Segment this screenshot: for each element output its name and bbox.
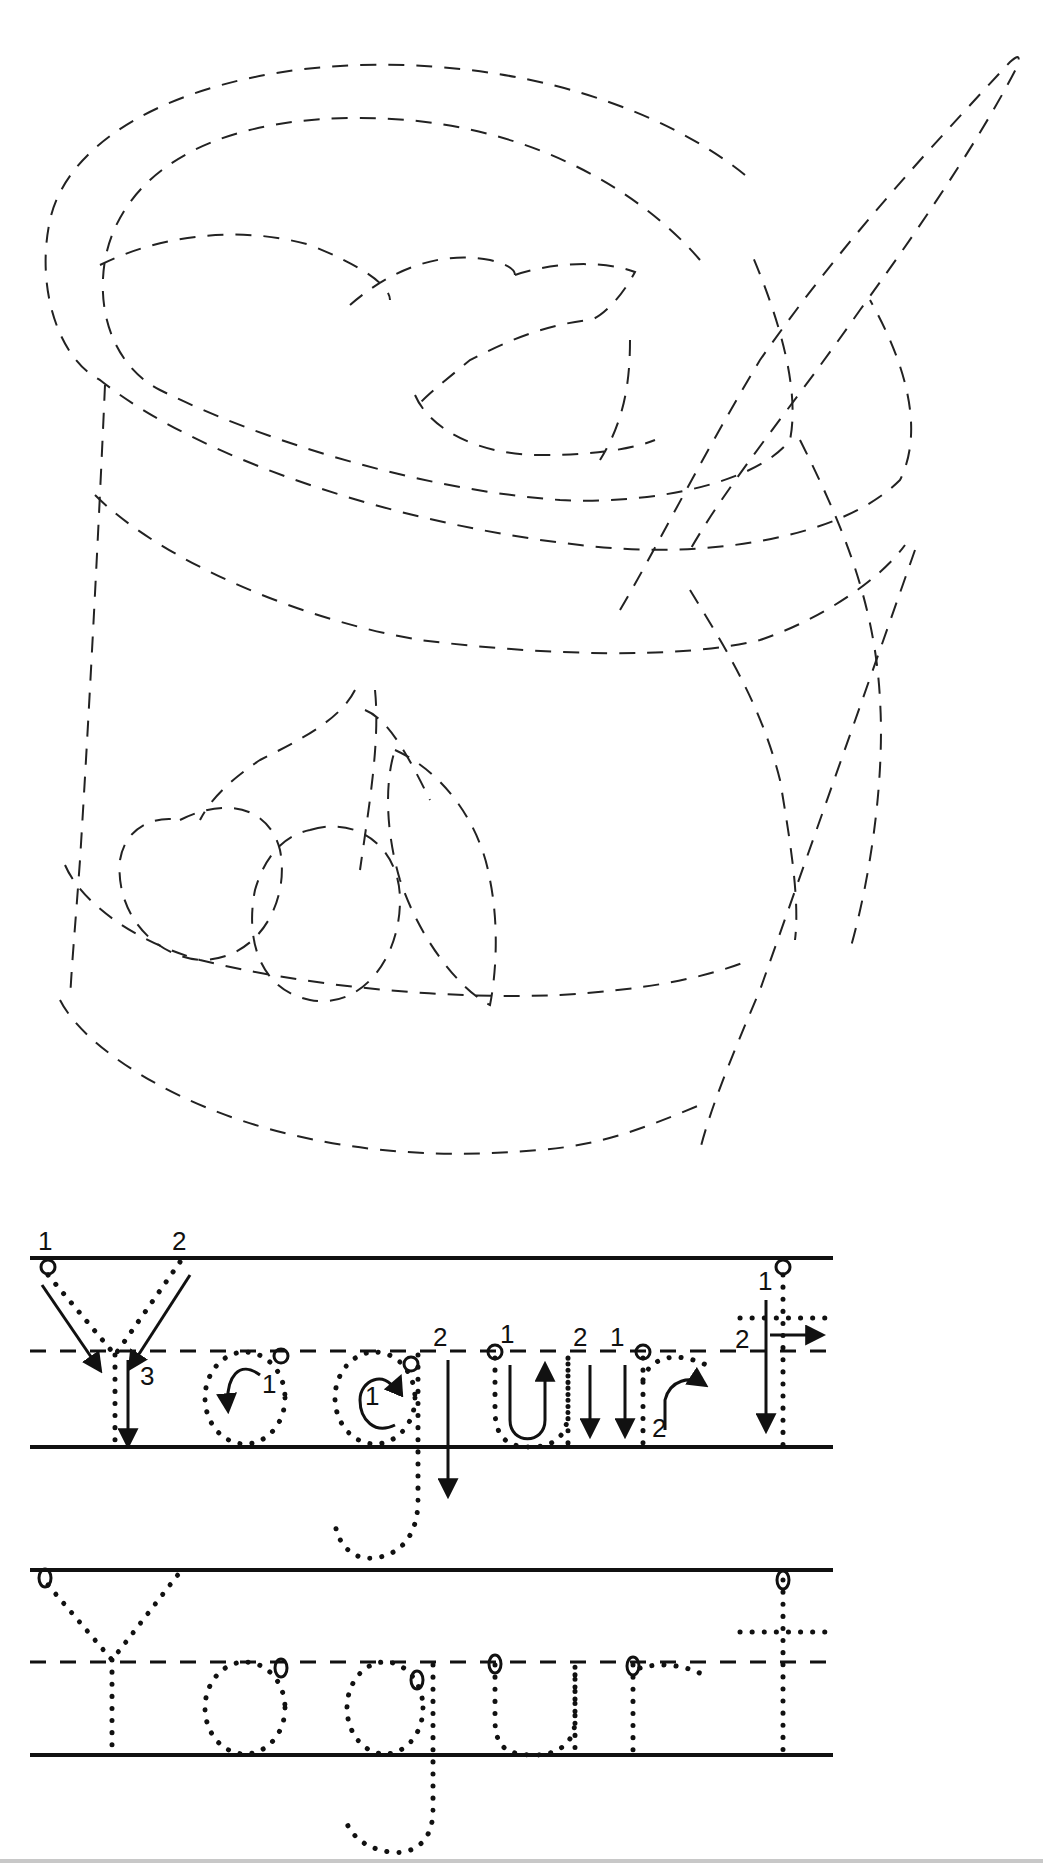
start-circle-t bbox=[776, 1260, 790, 1274]
start-circle-g bbox=[404, 1357, 418, 1371]
tracing-worksheet: 1 2 3 1 1 2 1 2 1 2 1 2 bbox=[0, 0, 1043, 1863]
arrow-r-stroke2 bbox=[665, 1380, 705, 1430]
arrow-u-stroke1 bbox=[510, 1365, 545, 1439]
spoon-bowl bbox=[690, 440, 881, 950]
arrow-o-circle bbox=[228, 1369, 260, 1410]
yogurt-swirl-bottom bbox=[415, 340, 655, 460]
dotted-letter-g-tail bbox=[345, 1665, 433, 1853]
yogurt-swirl-center bbox=[415, 264, 635, 410]
stroke-number: 2 bbox=[172, 1226, 186, 1256]
practice-writing-row bbox=[30, 1569, 833, 1853]
guided-writing-row: 1 2 3 1 1 2 1 2 1 2 1 2 bbox=[30, 1226, 833, 1558]
dotted-letter-t bbox=[740, 1275, 830, 1447]
stroke-number: 1 bbox=[610, 1322, 624, 1352]
dotted-letter-y bbox=[48, 1262, 180, 1445]
dotted-letter-t bbox=[740, 1580, 825, 1753]
stroke-number: 1 bbox=[262, 1369, 276, 1399]
dotted-letter-o bbox=[205, 1662, 285, 1754]
dotted-letter-u bbox=[495, 1355, 568, 1447]
stroke-number: 1 bbox=[758, 1266, 772, 1296]
stroke-number: 1 bbox=[38, 1226, 52, 1256]
cup-band-lower bbox=[65, 865, 750, 996]
cherry-leaf bbox=[388, 750, 496, 1005]
stroke-number: 2 bbox=[573, 1322, 587, 1352]
yogurt-cup-illustration bbox=[46, 57, 1019, 1154]
stroke-number: 1 bbox=[500, 1319, 514, 1349]
scan-edge bbox=[0, 1859, 1043, 1863]
yogurt-swirl-left bbox=[100, 235, 515, 305]
cup-rim-outer bbox=[46, 65, 912, 550]
stroke-number: 2 bbox=[433, 1322, 447, 1352]
stroke-number: 3 bbox=[140, 1361, 154, 1391]
start-circle-y1 bbox=[41, 1260, 55, 1274]
cherry-stems bbox=[200, 690, 430, 870]
cup-band-upper bbox=[95, 495, 905, 653]
arrow-y-stroke1 bbox=[42, 1285, 100, 1370]
stroke-number: 2 bbox=[652, 1413, 666, 1443]
stroke-number: 2 bbox=[735, 1324, 749, 1354]
dotted-letter-r bbox=[633, 1665, 708, 1753]
dotted-letter-u bbox=[495, 1665, 575, 1755]
cup-bottom bbox=[60, 1000, 700, 1154]
cup-body-right-side bbox=[700, 550, 915, 1150]
cup-body-left-side bbox=[70, 385, 105, 1000]
cherry-right bbox=[252, 826, 400, 1001]
stroke-number: 1 bbox=[365, 1381, 379, 1411]
